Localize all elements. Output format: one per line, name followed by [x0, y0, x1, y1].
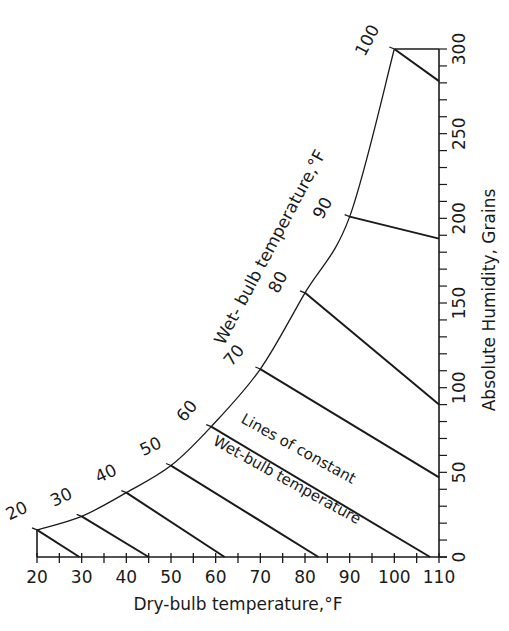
x-tick-label: 20 [26, 567, 48, 587]
y-tick-label: 0 [449, 552, 469, 563]
curve-tick [255, 367, 260, 369]
curve-tick [345, 215, 350, 217]
psychrometric-chart: 2030405060708090100110 05010015020025030… [0, 0, 509, 631]
wet-bulb-line-90 [350, 217, 439, 239]
curve-labels: 2030405060708090100 [2, 21, 394, 530]
x-axis-title: Dry-bulb temperature,°F [134, 594, 343, 614]
curve-label-60: 60 [172, 396, 201, 425]
curve-tick [300, 291, 305, 293]
curve-tick [77, 514, 82, 516]
saturation-curve-path [37, 49, 394, 530]
x-tick-label: 90 [339, 567, 361, 587]
curve-label-40: 40 [92, 460, 120, 487]
curve-label-100: 100 [351, 21, 384, 59]
x-tick-label: 70 [250, 567, 272, 587]
y-axis-title: Absolute Humidity, Grains [479, 189, 499, 412]
y-tick-label: 300 [449, 33, 469, 65]
x-tick-label: 60 [205, 567, 227, 587]
x-axis: 2030405060708090100110 [26, 530, 455, 587]
x-tick-label: 80 [294, 567, 316, 587]
x-tick-label: 50 [160, 567, 182, 587]
x-tick-label: 110 [423, 567, 455, 587]
x-tick-label: 40 [116, 567, 138, 587]
y-tick-label: 50 [449, 462, 469, 484]
curve-label-30: 30 [47, 483, 75, 510]
wet-bulb-line-70 [260, 369, 439, 477]
saturation-curve-title: Wet- bulb temperature,°F [210, 146, 330, 347]
y-tick-label: 150 [449, 287, 469, 319]
wet-bulb-line-40 [126, 493, 224, 557]
x-tick-label: 100 [378, 567, 410, 587]
wet-bulb-line-80 [305, 293, 439, 405]
curve-tick [121, 491, 126, 493]
y-tick-label: 250 [449, 117, 469, 149]
wet-bulb-line-20 [37, 530, 79, 557]
curve-label-20: 20 [2, 497, 30, 524]
curve-label-80: 80 [264, 268, 292, 296]
curve-label-90: 90 [308, 194, 336, 222]
curve-tick [206, 425, 211, 427]
y-axis: 050100150200250300 [394, 33, 469, 563]
curve-label-50: 50 [136, 432, 164, 459]
wet-bulb-line-100 [394, 49, 439, 81]
curve-tick [166, 464, 171, 466]
saturation-curve [37, 49, 394, 530]
curve-tick [32, 528, 37, 530]
y-tick-label: 200 [449, 202, 469, 234]
y-tick-label: 100 [449, 371, 469, 403]
wet-bulb-line-30 [82, 516, 149, 557]
curve-tick [389, 47, 394, 49]
x-tick-label: 30 [71, 567, 93, 587]
